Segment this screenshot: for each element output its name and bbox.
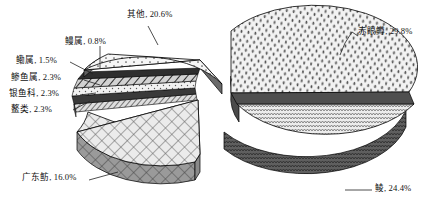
label-carangid-genus: 鲹鱼属, 2.3% [11, 73, 61, 82]
label-guangdong-bream: 广东鲂, 16.0% [22, 173, 77, 182]
leader-line-other [148, 26, 158, 45]
pie-chart-figure: 其他, 20.6% 鳗属, 0.8% 鳓属, 1.5% 鲹鱼属, 2.3% 银鱼… [0, 0, 435, 212]
pie-group-left [72, 54, 222, 184]
label-redeye-trout: 赤眼鳟, 29.8% [358, 27, 413, 36]
slice-top-redeye-trout[interactable] [231, 5, 418, 93]
label-other: 其他, 20.6% [127, 10, 172, 19]
label-salangidae: 银鱼科, 2.3% [9, 89, 59, 98]
slice-top-mud-carp[interactable] [237, 104, 414, 134]
label-mud-carp: 鲮, 24.4% [375, 184, 411, 193]
label-eel-genus: 鳗属, 0.8% [65, 37, 106, 46]
label-ilisha-genus: 鳓属, 1.5% [16, 56, 57, 65]
slice-gap-right [231, 92, 414, 104]
label-shrimp-group: 鳌类, 2.3% [11, 105, 52, 114]
